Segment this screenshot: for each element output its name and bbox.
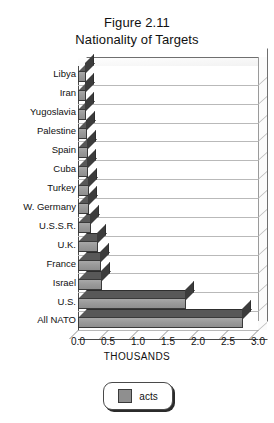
chart-subtitle: Nationality of Targets — [0, 31, 274, 48]
bar-right-face — [101, 262, 110, 282]
bar-front-face — [78, 222, 91, 233]
x-axis-labels: 0.00.51.01.52.02.53.0 — [0, 336, 274, 350]
category-label: Turkey — [0, 183, 76, 193]
bar-right-face — [87, 130, 96, 150]
category-label: U.S.S.R. — [0, 221, 76, 231]
x-tick-label: 1.0 — [123, 336, 153, 348]
chart-legend[interactable]: acts — [103, 382, 173, 410]
gridline — [78, 123, 258, 124]
gridline — [78, 160, 258, 161]
bar-right-face — [242, 300, 251, 320]
gridline — [78, 104, 258, 105]
chart-title: Figure 2.11 — [0, 14, 274, 31]
category-label: W. Germany — [0, 202, 76, 212]
bar — [78, 222, 91, 233]
category-label: All NATO — [0, 315, 76, 325]
bar-front-face — [78, 147, 88, 158]
bar-right-face — [88, 168, 97, 188]
bar-front-face — [78, 109, 86, 120]
bar — [78, 298, 186, 309]
bar-front-face — [78, 317, 243, 328]
category-label: Yugoslavia — [0, 107, 76, 117]
bar-front-face — [78, 260, 101, 271]
bar-right-face — [85, 73, 94, 93]
bar-right-face — [185, 281, 194, 301]
plot-back-right-edge — [258, 57, 259, 321]
bar-front-face — [78, 166, 88, 177]
bar-front-face — [78, 203, 89, 214]
category-label: U.S. — [0, 297, 76, 307]
bar — [78, 166, 88, 177]
gridline — [78, 179, 258, 180]
x-tick-label: 0.5 — [93, 336, 123, 348]
bar-front-face — [78, 279, 102, 290]
category-label: Palestine — [0, 126, 76, 136]
bar-front-face — [78, 128, 87, 139]
x-tick-label: 2.0 — [183, 336, 213, 348]
bar — [78, 203, 89, 214]
category-label: Israel — [0, 278, 76, 288]
gridline — [78, 85, 258, 86]
x-tick-label: 1.5 — [153, 336, 183, 348]
bar-right-face — [86, 111, 95, 131]
bar — [78, 147, 88, 158]
bar-right-face — [97, 224, 106, 244]
bar — [78, 241, 98, 252]
bar — [78, 109, 86, 120]
category-label: U.K. — [0, 240, 76, 250]
x-tick-label: 2.5 — [213, 336, 243, 348]
category-label: Spain — [0, 145, 76, 155]
category-label: Cuba — [0, 164, 76, 174]
bar — [78, 279, 102, 290]
bar-right-face — [88, 186, 97, 206]
plot-top-face — [78, 57, 259, 66]
bar-front-face — [78, 241, 98, 252]
bar-right-face — [90, 205, 99, 225]
x-tick-label: 3.0 — [243, 336, 273, 348]
category-axis-labels: LibyaIranYugoslaviaPalestineSpainCubaTur… — [0, 66, 76, 330]
chart-title-block: Figure 2.11 Nationality of Targets — [0, 14, 274, 48]
bar — [78, 260, 101, 271]
bar-right-face — [85, 92, 94, 112]
gridline — [78, 217, 258, 218]
bar-front-face — [78, 298, 186, 309]
category-label: Iran — [0, 88, 76, 98]
bar-right-face — [100, 243, 109, 263]
gridline — [78, 198, 258, 199]
bar-right-face — [87, 149, 96, 169]
plot-area — [78, 66, 258, 330]
category-label: France — [0, 259, 76, 269]
legend-swatch-acts — [118, 389, 132, 403]
category-label: Libya — [0, 69, 76, 79]
legend-label-acts: acts — [139, 391, 157, 402]
bar — [78, 317, 243, 328]
x-tick-label: 0.0 — [63, 336, 93, 348]
figure-root: Figure 2.11 Nationality of Targets Libya… — [0, 0, 274, 423]
x-axis-title: THOUSANDS — [0, 351, 274, 362]
bar — [78, 128, 87, 139]
gridline — [78, 141, 258, 142]
